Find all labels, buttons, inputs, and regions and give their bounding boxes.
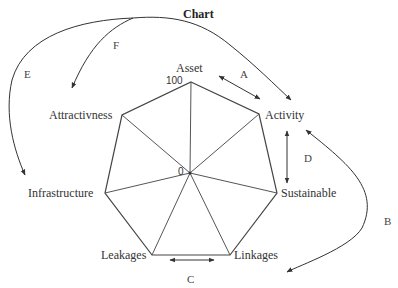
axis-label-activity: Activity <box>265 109 304 121</box>
axis-label-leakages: Leakages <box>101 249 146 261</box>
center-dot <box>189 172 192 175</box>
arrow-f <box>72 18 133 88</box>
relation-label-f: F <box>113 40 119 51</box>
radar-diagram-graphics <box>0 0 398 288</box>
relation-label-d: D <box>304 153 312 164</box>
axis-label-infrastructure: Infrastructure <box>28 187 93 199</box>
diagram-canvas: Chart Asset Activity Sustainable Linkage… <box>0 0 398 288</box>
scale-min-label: 0 <box>178 167 184 177</box>
radar-spokes <box>105 82 277 255</box>
axis-label-sustainable: Sustainable <box>281 187 336 199</box>
relation-label-c: C <box>187 274 194 285</box>
relation-label-b: B <box>384 216 391 227</box>
axis-label-linkages: Linkages <box>234 249 278 261</box>
relation-label-a: A <box>240 69 248 80</box>
arrow-top-curve <box>133 17 291 100</box>
relation-label-e: E <box>24 69 31 80</box>
arrow-b <box>287 130 367 272</box>
axis-label-asset: Asset <box>176 62 203 74</box>
axis-label-attractivness: Attractivness <box>49 109 112 121</box>
scale-max-label: 100 <box>166 76 183 86</box>
chart-title: Chart <box>183 8 214 20</box>
